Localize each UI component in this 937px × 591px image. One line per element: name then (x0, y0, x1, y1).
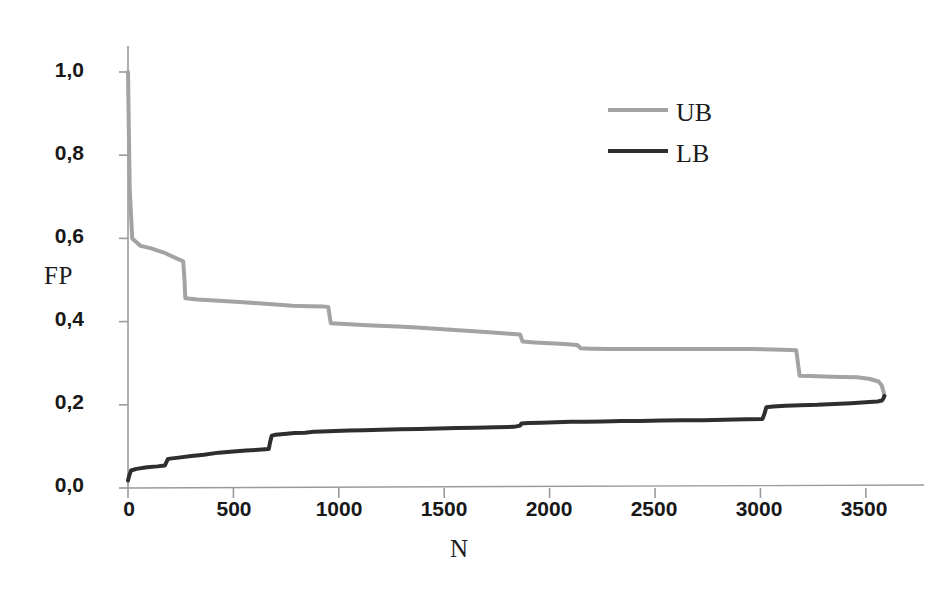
x-tick-label-1500: 1500 (409, 497, 479, 521)
data-series-layer (128, 72, 884, 481)
x-tick-label-2500: 2500 (619, 497, 689, 521)
chart-figure: FP N 1,0 0,8 0,6 0,4 0,2 0,0 0 500 1000 … (0, 0, 937, 591)
y-tick-label-0-6: 0,6 (30, 224, 84, 248)
y-axis-title: FP (44, 262, 73, 290)
legend-label-ub: UB (676, 98, 712, 128)
x-tick-label-1000: 1000 (304, 497, 374, 521)
y-tick-label-1-0: 1,0 (30, 58, 84, 82)
legend-swatches (608, 110, 668, 151)
series-line-ub (128, 72, 884, 396)
x-tick-label-500: 500 (199, 497, 269, 521)
x-axis-title: N (450, 535, 469, 563)
series-line-lb (128, 396, 884, 480)
y-tick-label-0-0: 0,0 (30, 473, 84, 497)
y-tick-label-0-2: 0,2 (30, 390, 84, 414)
x-tick-label-3000: 3000 (724, 497, 794, 521)
legend-label-lb: LB (676, 139, 709, 169)
y-tick-label-0-8: 0,8 (30, 141, 84, 165)
x-tick-label-3500: 3500 (829, 497, 899, 521)
x-tick-label-0: 0 (94, 497, 164, 521)
y-tick-label-0-4: 0,4 (30, 307, 84, 331)
axis-tickmarks (119, 72, 866, 498)
x-tick-label-2000: 2000 (514, 497, 584, 521)
